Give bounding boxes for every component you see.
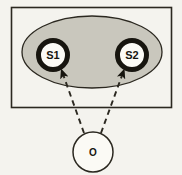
diagram-canvas: S1 S2 O <box>0 0 182 175</box>
node-s1-label: S1 <box>46 49 59 61</box>
node-s1[interactable]: S1 <box>39 41 68 70</box>
node-s2[interactable]: S2 <box>118 41 147 70</box>
node-s2-label: S2 <box>125 49 138 61</box>
node-o[interactable]: O <box>73 132 113 172</box>
node-o-label: O <box>89 147 97 158</box>
diagram-svg: S1 S2 O <box>0 0 182 175</box>
